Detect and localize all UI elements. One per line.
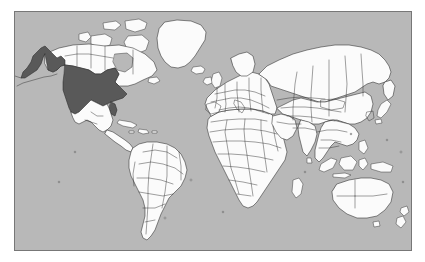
world-map-figure — [0, 0, 425, 262]
world-map-svg[interactable] — [15, 12, 411, 250]
landmass-tasmania — [373, 221, 380, 227]
map-frame — [14, 11, 412, 251]
landmass-puerto-rico — [152, 131, 157, 133]
landmass-sri-lanka — [307, 158, 312, 163]
landmass-japan-south — [375, 119, 382, 124]
landmass-jamaica — [129, 131, 134, 133]
